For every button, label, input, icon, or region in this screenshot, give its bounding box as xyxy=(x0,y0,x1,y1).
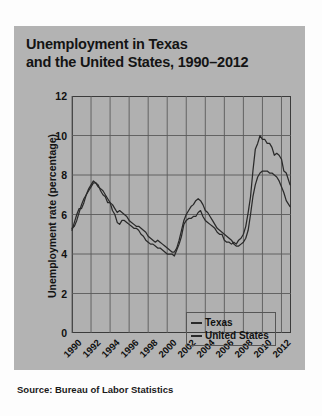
chart-title-line-1: Unemployment in Texas xyxy=(26,36,298,54)
y-tick-label: 4 xyxy=(61,248,67,260)
x-tick-label: 2000 xyxy=(156,337,179,360)
plot-area: 024681012 199019921994199619982000200220… xyxy=(72,96,291,333)
legend-label-united-states: United States xyxy=(205,330,269,341)
x-tick-label: 1990 xyxy=(61,337,84,360)
source-caption: Source: Bureau of Labor Statistics xyxy=(17,384,173,395)
chart-title: Unemployment in Texas and the United Sta… xyxy=(26,36,298,71)
y-tick-label: 12 xyxy=(55,90,67,102)
legend-swatch-united-states xyxy=(191,335,202,337)
y-tick-label: 0 xyxy=(61,327,67,339)
x-tick-label: 1998 xyxy=(137,337,160,360)
legend-label-texas: Texas xyxy=(205,317,233,328)
y-tick-label: 8 xyxy=(61,169,67,181)
legend-item-texas: Texas xyxy=(191,316,275,329)
y-tick-label: 6 xyxy=(61,209,67,221)
x-tick-label: 1994 xyxy=(99,337,122,360)
x-tick-label: 1992 xyxy=(80,337,103,360)
data-series-lines xyxy=(72,96,291,333)
chart-title-line-2: and the United States, 1990–2012 xyxy=(26,54,298,72)
chart-panel: Unemployment in Texas and the United Sta… xyxy=(14,26,305,370)
y-axis-label: Unemployment rate (percentage) xyxy=(46,116,58,316)
figure-container: Unemployment in Texas and the United Sta… xyxy=(0,0,322,416)
legend-item-united-states: United States xyxy=(191,329,275,342)
x-tick-label: 1996 xyxy=(118,337,141,360)
chart-legend: Texas United States xyxy=(186,312,276,346)
y-tick-label: 2 xyxy=(61,288,67,300)
legend-swatch-texas xyxy=(191,322,202,324)
y-tick-label: 10 xyxy=(55,130,67,142)
